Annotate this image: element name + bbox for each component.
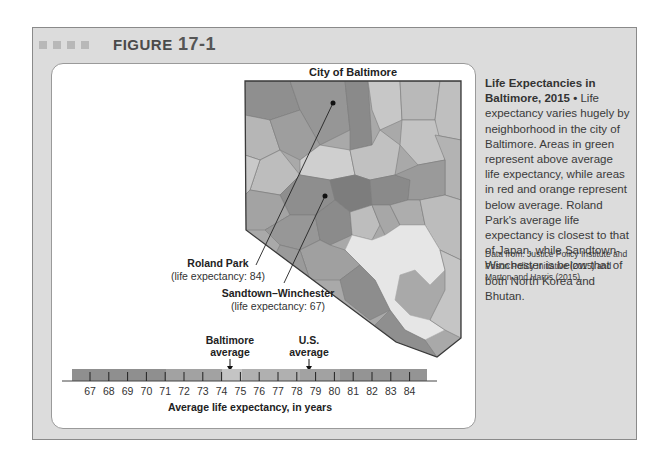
svg-text:67: 67	[84, 385, 96, 397]
svg-text:77: 77	[272, 385, 284, 397]
scale-tick-labels: 67 68 69 70 71 72 73 74 75 76 77 78 79 8…	[84, 385, 415, 397]
sandtown-detail: (life expectancy: 67)	[231, 300, 325, 312]
life-expectancy-color-scale: 67 68 69 70 71 72 73 74 75 76 77 78 79 8…	[62, 369, 437, 413]
roland-park-detail: (life expectancy: 84)	[171, 270, 265, 282]
map-and-scale-graphic: City of Baltimore	[0, 0, 669, 461]
svg-text:average: average	[210, 346, 250, 358]
svg-text:Sandtown–Winchester: Sandtown–Winchester	[222, 287, 335, 299]
svg-text:79: 79	[310, 385, 322, 397]
svg-text:81: 81	[347, 385, 359, 397]
svg-text:Baltimore: Baltimore	[206, 334, 255, 346]
svg-text:76: 76	[253, 385, 265, 397]
svg-text:average: average	[289, 346, 329, 358]
sandtown-dot	[323, 194, 328, 199]
svg-text:71: 71	[159, 385, 171, 397]
svg-text:78: 78	[291, 385, 303, 397]
svg-text:70: 70	[141, 385, 153, 397]
map-title: City of Baltimore	[309, 66, 397, 78]
svg-text:Roland Park: Roland Park	[187, 257, 248, 269]
svg-text:(life expectancy: 84): (life expectancy: 84)	[171, 270, 265, 282]
svg-text:68: 68	[103, 385, 115, 397]
svg-text:83: 83	[385, 385, 397, 397]
scale-axis-label: Average life expectancy, in years	[168, 401, 332, 413]
us-average-marker: U.S. average	[289, 334, 329, 371]
svg-text:75: 75	[235, 385, 247, 397]
svg-text:74: 74	[216, 385, 228, 397]
roland-park-dot	[331, 101, 336, 106]
svg-text:69: 69	[122, 385, 134, 397]
roland-park-name: Roland Park	[187, 257, 248, 269]
svg-text:80: 80	[329, 385, 341, 397]
svg-text:72: 72	[178, 385, 190, 397]
svg-text:U.S.: U.S.	[299, 334, 320, 346]
svg-text:82: 82	[366, 385, 378, 397]
baltimore-average-marker: Baltimore average	[206, 334, 255, 371]
svg-text:73: 73	[197, 385, 209, 397]
sandtown-name: Sandtown–Winchester	[222, 287, 335, 299]
svg-text:(life expectancy: 67): (life expectancy: 67)	[231, 300, 325, 312]
svg-text:84: 84	[404, 385, 416, 397]
